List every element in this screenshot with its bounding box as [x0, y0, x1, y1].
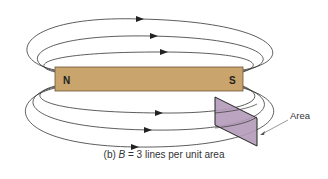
caption-text: = 3 lines per unit area [125, 149, 224, 160]
area-label: Area [290, 110, 310, 121]
upper-field-lines [27, 19, 273, 72]
caption-prefix: (b) [104, 149, 119, 160]
area-pointer-arrowhead [260, 131, 265, 135]
upper-arrow-markers [136, 16, 168, 55]
north-pole-label: N [63, 75, 70, 86]
bar-magnet: N S [55, 67, 243, 91]
south-pole-label: S [229, 75, 236, 86]
area-pointer-line [262, 120, 288, 134]
area-patch [215, 97, 257, 146]
figure-caption: (b) B = 3 lines per unit area [0, 149, 328, 160]
